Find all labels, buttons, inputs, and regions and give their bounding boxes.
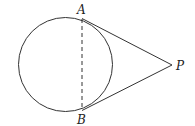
label-a: A bbox=[76, 3, 86, 17]
circle bbox=[19, 18, 113, 112]
label-p: P bbox=[175, 59, 185, 73]
label-b: B bbox=[76, 113, 86, 126]
tangent-bp bbox=[82, 65, 172, 111]
tangent-diagram: A B P bbox=[0, 0, 195, 126]
tangent-ap bbox=[82, 19, 172, 66]
